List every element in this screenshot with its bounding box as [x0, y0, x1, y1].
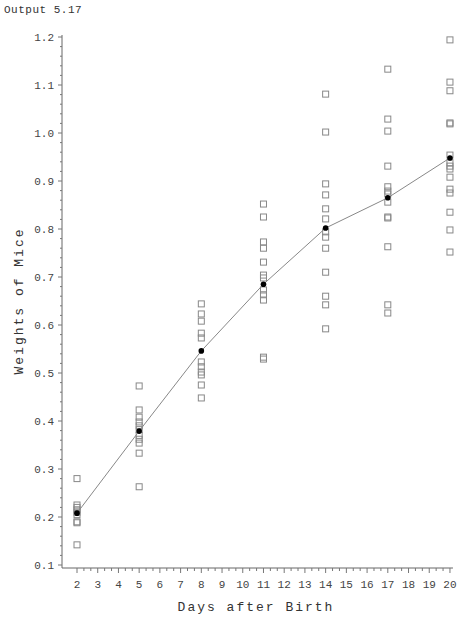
y-tick-label: 0.9	[34, 176, 54, 188]
x-tick-label: 18	[402, 579, 415, 591]
data-point	[323, 129, 329, 135]
data-point	[198, 382, 204, 388]
data-point	[447, 209, 453, 215]
x-tick-label: 20	[443, 579, 456, 591]
data-point	[198, 318, 204, 324]
x-tick-label: 8	[198, 579, 205, 591]
x-axis: 234567891011121314151617181920	[62, 568, 457, 591]
data-point	[260, 245, 266, 251]
y-axis: 0.10.20.30.40.50.60.70.80.91.01.11.2	[34, 32, 62, 572]
data-point	[260, 354, 266, 360]
y-tick-label: 0.6	[34, 320, 54, 332]
data-point	[136, 440, 142, 446]
data-point	[447, 186, 453, 192]
y-tick-label: 0.7	[34, 272, 54, 284]
data-point	[385, 163, 391, 169]
y-tick-label: 0.8	[34, 224, 54, 236]
mean-line	[77, 158, 450, 513]
data-point	[385, 310, 391, 316]
data-point	[74, 476, 80, 482]
y-tick-label: 0.4	[34, 416, 54, 428]
data-point	[136, 450, 142, 456]
x-tick-label: 3	[94, 579, 101, 591]
x-tick-label: 2	[74, 579, 81, 591]
y-tick-label: 0.3	[34, 464, 54, 476]
data-point	[447, 190, 453, 196]
y-tick-label: 0.2	[34, 512, 54, 524]
data-point	[385, 116, 391, 122]
mean-point	[385, 195, 391, 201]
data-point	[447, 249, 453, 255]
x-tick-label: 17	[381, 579, 394, 591]
raw-data-points	[74, 37, 453, 548]
data-point	[198, 395, 204, 401]
data-point	[323, 181, 329, 187]
y-tick-label: 0.5	[34, 368, 54, 380]
data-point	[447, 37, 453, 43]
data-point	[136, 484, 142, 490]
mean-point	[199, 348, 205, 354]
x-tick-label: 12	[278, 579, 291, 591]
data-point	[136, 383, 142, 389]
mean-points	[74, 155, 453, 516]
scatter-plot: 0.10.20.30.40.50.60.70.80.91.01.11.2 234…	[0, 0, 467, 621]
x-tick-label: 9	[219, 579, 226, 591]
mean-point	[74, 510, 80, 516]
y-tick-label: 1.1	[34, 80, 54, 92]
y-axis-title: Weights of Mice	[12, 227, 27, 374]
data-point	[260, 259, 266, 265]
data-point	[447, 88, 453, 94]
mean-point	[136, 428, 142, 434]
data-point	[385, 184, 391, 190]
data-point	[260, 239, 266, 245]
data-point	[323, 326, 329, 332]
x-tick-label: 7	[177, 579, 184, 591]
data-point	[323, 302, 329, 308]
data-point	[447, 227, 453, 233]
data-point	[74, 542, 80, 548]
data-point	[385, 66, 391, 72]
data-point	[323, 293, 329, 299]
x-tick-label: 10	[236, 579, 249, 591]
y-tick-label: 0.1	[34, 560, 54, 572]
x-tick-label: 11	[257, 579, 271, 591]
data-point	[323, 192, 329, 198]
data-point	[260, 201, 266, 207]
data-point	[323, 91, 329, 97]
data-point	[385, 302, 391, 308]
data-point	[260, 214, 266, 220]
mean-point	[323, 225, 329, 231]
x-tick-label: 19	[423, 579, 436, 591]
data-point	[323, 269, 329, 275]
data-point	[323, 245, 329, 251]
y-tick-label: 1.0	[34, 128, 54, 140]
mean-point	[261, 281, 267, 287]
x-tick-label: 16	[360, 579, 373, 591]
x-tick-label: 4	[115, 579, 122, 591]
data-point	[323, 216, 329, 222]
x-tick-label: 5	[136, 579, 143, 591]
x-tick-label: 14	[319, 579, 333, 591]
mean-point	[447, 155, 453, 161]
data-point	[198, 301, 204, 307]
data-point	[136, 407, 142, 413]
data-point	[323, 206, 329, 212]
x-tick-label: 6	[157, 579, 164, 591]
data-point	[385, 128, 391, 134]
data-point	[447, 79, 453, 85]
data-point	[260, 356, 266, 362]
x-tick-label: 15	[340, 579, 353, 591]
data-point	[385, 244, 391, 250]
x-tick-label: 13	[298, 579, 311, 591]
data-point	[198, 311, 204, 317]
x-axis-title: Days after Birth	[178, 600, 335, 615]
y-tick-label: 1.2	[34, 32, 54, 44]
data-point	[447, 174, 453, 180]
data-point	[136, 436, 142, 442]
